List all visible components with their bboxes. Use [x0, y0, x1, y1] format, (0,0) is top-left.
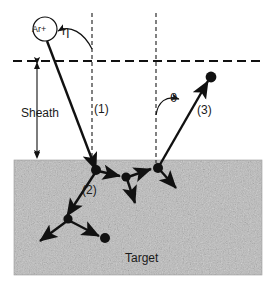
region-1-label: (1): [94, 102, 109, 116]
sputtering-diagram: Ar+ η θ Sheath (1) (2) (3) Target: [0, 0, 265, 283]
region-2-label: (2): [82, 183, 97, 197]
target-label: Target: [125, 251, 158, 265]
ejected-atom-trajectory: [158, 81, 208, 168]
ion-species-label: Ar+: [32, 24, 46, 34]
sheath-label: Sheath: [21, 106, 59, 120]
ejected-atom-dot: [206, 72, 217, 83]
region-3-label: (3): [197, 103, 212, 117]
emission-angle-label: θ: [170, 90, 177, 105]
incidence-angle-label: η: [62, 23, 69, 38]
diagram-canvas: [0, 0, 265, 283]
